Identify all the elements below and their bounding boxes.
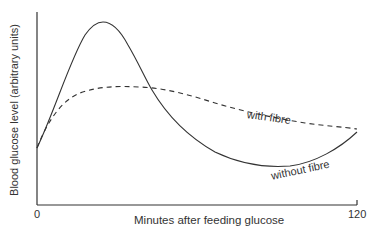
series-without-fibre bbox=[37, 22, 357, 166]
y-axis-label: Blood glucose level (arbitrary units) bbox=[8, 10, 20, 210]
x-tick-label-0: 0 bbox=[34, 208, 40, 220]
x-tick-label-120: 120 bbox=[348, 208, 366, 220]
glucose-chart: Blood glucose level (arbitrary units) 0 … bbox=[0, 0, 381, 237]
chart-plot bbox=[0, 0, 381, 237]
x-axis-label: Minutes after feeding glucose bbox=[134, 214, 284, 226]
series-with-fibre bbox=[37, 87, 357, 148]
